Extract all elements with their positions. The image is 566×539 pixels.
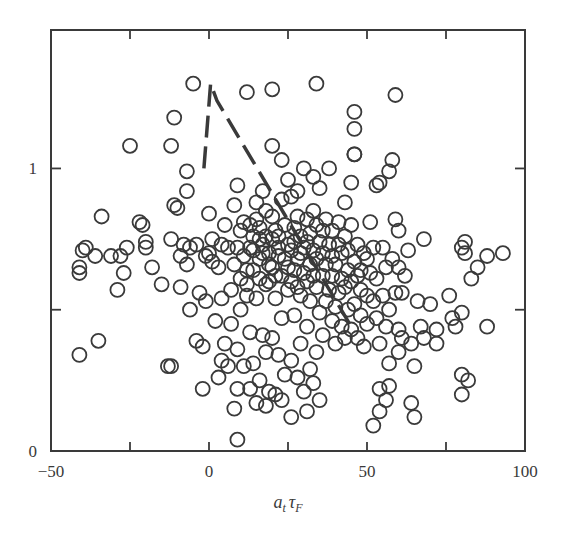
- data-point: [287, 308, 301, 322]
- data-point: [202, 207, 216, 221]
- data-point: [243, 325, 257, 339]
- data-point: [344, 176, 358, 190]
- data-point: [164, 359, 178, 373]
- data-point: [230, 342, 244, 356]
- data-point: [234, 303, 248, 317]
- data-point: [136, 218, 150, 232]
- data-point: [363, 215, 377, 229]
- data-point: [373, 337, 387, 351]
- data-point: [379, 393, 393, 407]
- data-point: [215, 291, 229, 305]
- data-point: [224, 317, 238, 331]
- data-point: [246, 356, 260, 370]
- data-point: [265, 82, 279, 96]
- data-point: [72, 348, 86, 362]
- data-point: [423, 297, 437, 311]
- data-point: [227, 402, 241, 416]
- data-point: [411, 294, 425, 308]
- data-point: [167, 111, 181, 125]
- data-point: [382, 379, 396, 393]
- x-tick-label: −50: [38, 462, 65, 481]
- data-point: [202, 246, 216, 260]
- data-point: [306, 376, 320, 390]
- scatter-points: [72, 77, 510, 447]
- data-point: [480, 320, 494, 334]
- data-point: [227, 198, 241, 212]
- data-point: [230, 433, 244, 447]
- data-point: [268, 291, 282, 305]
- data-point: [208, 314, 222, 328]
- data-point: [316, 328, 330, 342]
- data-point: [303, 362, 317, 376]
- data-point: [180, 164, 194, 178]
- data-point: [300, 404, 314, 418]
- data-point: [449, 320, 463, 334]
- data-point: [313, 181, 327, 195]
- data-point: [164, 139, 178, 153]
- data-point: [196, 382, 210, 396]
- data-point: [338, 195, 352, 209]
- data-point: [265, 331, 279, 345]
- data-point: [240, 85, 254, 99]
- data-point: [344, 218, 358, 232]
- data-point: [259, 345, 273, 359]
- data-point: [417, 232, 431, 246]
- x-tick-label: 100: [512, 462, 538, 481]
- data-point: [284, 354, 298, 368]
- data-point: [183, 303, 197, 317]
- data-point: [256, 328, 270, 342]
- data-point: [284, 410, 298, 424]
- data-point: [313, 393, 327, 407]
- data-point: [480, 249, 494, 263]
- data-point: [237, 359, 251, 373]
- data-point: [110, 283, 124, 297]
- x-axis-label: atτF: [273, 492, 303, 515]
- data-point: [278, 368, 292, 382]
- data-point: [117, 266, 131, 280]
- data-point: [79, 241, 93, 255]
- data-point: [297, 161, 311, 175]
- data-point: [347, 147, 361, 161]
- data-point: [309, 345, 323, 359]
- data-point: [347, 105, 361, 119]
- y-tick-label: 1: [29, 159, 38, 178]
- dashed-trend-line: [204, 84, 350, 324]
- data-point: [88, 249, 102, 263]
- data-point: [186, 77, 200, 91]
- data-point: [401, 243, 415, 257]
- data-point: [180, 184, 194, 198]
- data-point: [392, 345, 406, 359]
- data-point: [170, 201, 184, 215]
- data-point: [161, 359, 175, 373]
- data-point: [133, 215, 147, 229]
- data-point: [430, 323, 444, 337]
- x-tick-label: 50: [359, 462, 376, 481]
- data-point: [370, 178, 384, 192]
- data-point: [249, 291, 263, 305]
- data-point: [249, 396, 263, 410]
- data-point: [430, 337, 444, 351]
- data-point: [322, 161, 336, 175]
- data-point: [123, 139, 137, 153]
- data-point: [155, 277, 169, 291]
- data-point: [294, 337, 308, 351]
- data-point: [347, 122, 361, 136]
- data-point: [388, 88, 402, 102]
- data-point: [291, 371, 305, 385]
- data-point: [455, 388, 469, 402]
- data-point: [382, 303, 396, 317]
- x-tick-label: 0: [205, 462, 214, 481]
- scatter-chart: −50050100 01 atτF: [0, 0, 566, 539]
- trend-line: [204, 84, 350, 324]
- y-tick-label: 0: [29, 442, 38, 461]
- data-point: [91, 334, 105, 348]
- data-point: [275, 153, 289, 167]
- data-point: [496, 246, 510, 260]
- data-point: [404, 396, 418, 410]
- data-point: [379, 320, 393, 334]
- data-point: [297, 385, 311, 399]
- data-point: [366, 419, 380, 433]
- data-point: [442, 289, 456, 303]
- data-point: [265, 139, 279, 153]
- data-point: [407, 410, 421, 424]
